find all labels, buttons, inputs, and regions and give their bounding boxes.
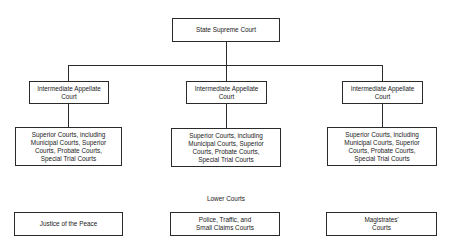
- state-supreme-court-node: State Supreme Court: [172, 18, 280, 42]
- connector-right-lower: [382, 104, 383, 127]
- intermediate-appellate-node-middle: Intermediate Appellate Court: [186, 81, 267, 104]
- node-label: Intermediate Appellate Court: [351, 85, 415, 101]
- police-traffic-small-claims-node: Police, Traffic, and Small Claims Courts: [170, 212, 280, 236]
- node-label: Magistrates' Courts: [364, 216, 398, 232]
- connector-top-vertical: [226, 42, 227, 65]
- intermediate-appellate-node-left: Intermediate Appellate Court: [29, 81, 109, 104]
- node-label: Superior Courts, including Municipal Cou…: [188, 132, 263, 164]
- superior-courts-node-left: Superior Courts, including Municipal Cou…: [15, 127, 122, 166]
- intermediate-appellate-node-right: Intermediate Appellate Court: [342, 81, 423, 104]
- connector-right-vertical: [382, 65, 383, 81]
- connector-middle-vertical: [226, 65, 227, 81]
- node-label: Police, Traffic, and Small Claims Courts: [196, 216, 254, 232]
- connector-left-vertical: [68, 65, 69, 81]
- justice-of-the-peace-node: Justice of the Peace: [14, 212, 123, 236]
- node-label: Intermediate Appellate Court: [195, 85, 259, 101]
- connector-middle-lower: [226, 104, 227, 128]
- superior-courts-node-right: Superior Courts, including Municipal Cou…: [327, 127, 437, 166]
- node-label: Superior Courts, including Municipal Cou…: [31, 131, 106, 163]
- superior-courts-node-middle: Superior Courts, including Municipal Cou…: [171, 128, 281, 167]
- node-label: State Supreme Court: [196, 26, 256, 34]
- node-label: Superior Courts, including Municipal Cou…: [344, 131, 419, 163]
- connector-left-lower: [68, 104, 69, 127]
- node-label: Intermediate Appellate Court: [37, 85, 101, 101]
- node-label: Justice of the Peace: [40, 220, 98, 228]
- magistrates-courts-node: Magistrates' Courts: [326, 212, 437, 236]
- lower-courts-heading: Lower Courts: [176, 195, 276, 202]
